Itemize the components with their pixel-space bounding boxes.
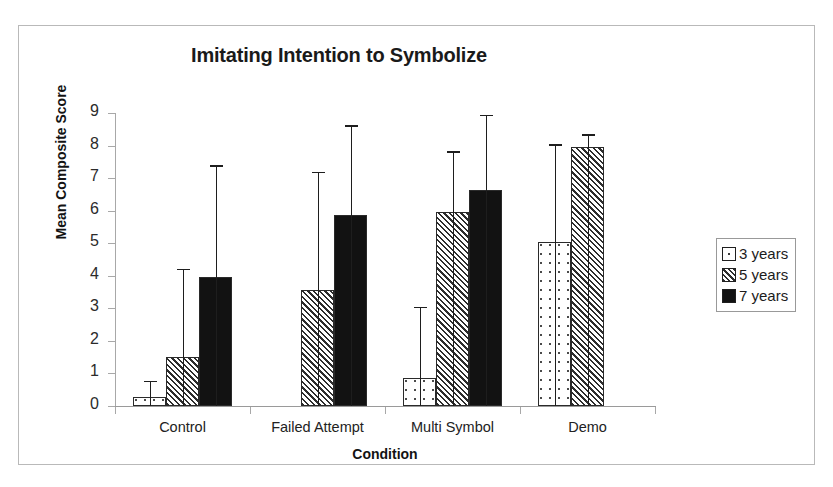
y-axis-tick-mark (108, 243, 115, 244)
error-bar-cap (414, 307, 427, 309)
y-axis-tick-label: 2 (90, 330, 99, 348)
y-axis-tick-mark (108, 146, 115, 147)
error-bar (183, 269, 184, 406)
y-axis-tick-label: 7 (90, 167, 99, 185)
legend-label: 3 years (739, 245, 788, 262)
x-axis-category-label-control: Control (115, 419, 250, 435)
error-bar (216, 165, 217, 406)
error-bar-cap (480, 115, 493, 117)
y-axis-tick-label: 6 (90, 200, 99, 218)
y-axis-title: Mean Composite Score (53, 42, 69, 282)
error-bar-cap (144, 381, 157, 383)
figure-frame: Imitating Intention to Symbolize Mean Co… (18, 25, 815, 465)
error-bar-cap (582, 134, 595, 136)
x-axis-category-label-failed-attempt: Failed Attempt (250, 419, 385, 435)
x-axis-title: Condition (115, 446, 655, 462)
y-axis-tick-mark (108, 373, 115, 374)
legend-item-5-years: 5 years (722, 264, 788, 285)
y-axis-tick-label: 1 (90, 362, 99, 380)
x-axis-tick-mark (250, 407, 251, 414)
error-bar-cap (549, 144, 562, 146)
y-axis-tick-mark (108, 211, 115, 212)
error-bar-cap (210, 165, 223, 167)
y-axis-tick-mark (108, 406, 115, 407)
legend-swatch-icon (722, 247, 736, 261)
legend-swatch-icon (722, 289, 736, 303)
error-bar-cap (312, 172, 325, 174)
plot-area (115, 113, 655, 406)
y-axis-tick-label: 0 (90, 395, 99, 413)
legend-item-3-years: 3 years (722, 243, 788, 264)
legend-label: 5 years (739, 266, 788, 283)
x-axis-tick-mark (520, 407, 521, 414)
error-bar (351, 125, 352, 406)
error-bar (150, 381, 151, 406)
y-axis-tick-mark (108, 308, 115, 309)
legend-item-7-years: 7 years (722, 285, 788, 306)
x-axis-tick-mark (115, 407, 116, 414)
x-axis-tick-mark (385, 407, 386, 414)
y-axis-tick-mark (108, 178, 115, 179)
y-axis-tick-label: 4 (90, 265, 99, 283)
chart-title: Imitating Intention to Symbolize (19, 44, 659, 67)
x-axis-category-label-demo: Demo (520, 419, 655, 435)
x-axis-tick-mark (655, 407, 656, 414)
error-bar-cap (447, 151, 460, 153)
legend: 3 years5 years7 years (716, 238, 796, 312)
y-axis-tick-mark (108, 276, 115, 277)
error-bar (486, 115, 487, 406)
y-axis-tick-label: 9 (90, 102, 99, 120)
error-bar-cap (177, 269, 190, 271)
x-axis-category-label-multi-symbol: Multi Symbol (385, 419, 520, 435)
error-bar (318, 172, 319, 406)
y-axis-tick-label: 8 (90, 135, 99, 153)
error-bar (453, 151, 454, 406)
legend-swatch-icon (722, 268, 736, 282)
error-bar (588, 134, 589, 406)
error-bar (555, 144, 556, 406)
y-axis-tick-label: 3 (90, 297, 99, 315)
y-axis-tick-label: 5 (90, 232, 99, 250)
error-bar (420, 307, 421, 406)
y-axis-tick-mark (108, 341, 115, 342)
legend-label: 7 years (739, 287, 788, 304)
error-bar-cap (345, 125, 358, 127)
y-axis-tick-mark (108, 113, 115, 114)
